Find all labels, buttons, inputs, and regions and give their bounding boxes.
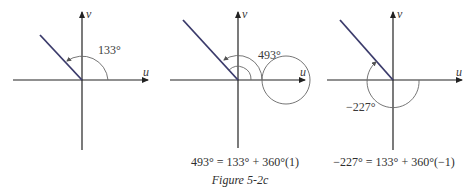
equation-neg227: −227° = 133° + 360°(−1)	[333, 155, 454, 170]
v-axis-label: v	[242, 8, 247, 20]
figure-caption: Figure 5-2c	[212, 173, 269, 188]
u-axis-label: u	[143, 66, 149, 78]
terminal-ray	[340, 20, 393, 80]
angle-label-493: 493°	[258, 49, 281, 61]
equation-493: 493° = 133° + 360°(1)	[191, 155, 299, 170]
panel-1-axes	[13, 12, 148, 150]
terminal-ray	[183, 20, 238, 80]
terminal-ray	[40, 35, 82, 80]
angle-arc-133	[67, 56, 108, 80]
u-axis-label: u	[456, 66, 462, 78]
u-axis-label: u	[300, 66, 306, 78]
angle-label-133: 133°	[98, 44, 121, 56]
angle-label-neg227: −227°	[346, 101, 376, 113]
panel-3-axes	[327, 12, 462, 150]
v-axis-label: v	[86, 8, 91, 20]
v-axis-label: v	[397, 8, 402, 20]
